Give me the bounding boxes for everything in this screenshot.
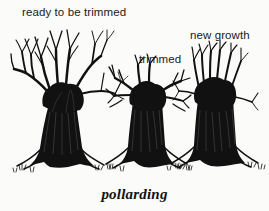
label-trimmed: trimmed <box>139 53 181 65</box>
tree-new-growth <box>167 40 265 170</box>
tree-trimmed <box>106 54 192 171</box>
label-ready-to-be-trimmed: ready to be trimmed <box>22 6 126 18</box>
pollarding-illustration: ready to be trimmed trimmed new growth p… <box>0 0 269 211</box>
figure-caption: pollarding <box>0 186 269 203</box>
label-new-growth: new growth <box>190 29 250 41</box>
